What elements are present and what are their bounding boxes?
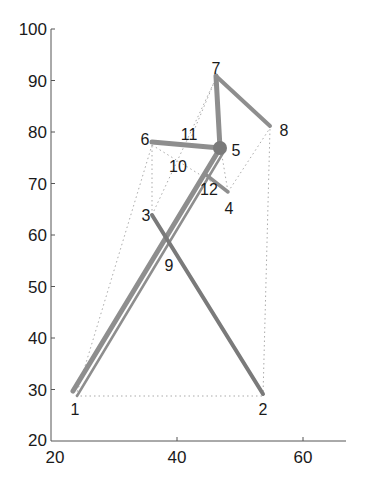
node-label-2: 2 xyxy=(259,401,268,418)
member-label-10: 10 xyxy=(169,158,187,175)
node-label-1: 1 xyxy=(71,401,80,418)
member-7-8 xyxy=(216,76,270,126)
y-tick-70: 70 xyxy=(28,175,47,194)
y-tick-80: 80 xyxy=(28,123,47,142)
x-tick-60: 60 xyxy=(294,448,313,467)
member-label-9: 9 xyxy=(165,257,174,274)
y-tick-90: 90 xyxy=(28,72,47,91)
node-label-6: 6 xyxy=(141,131,150,148)
y-tick-40: 40 xyxy=(28,329,47,348)
y-tick-20: 20 xyxy=(28,431,47,450)
member-5-7 xyxy=(216,76,220,148)
y-tick-30: 30 xyxy=(28,381,47,400)
node-label-8: 8 xyxy=(280,122,289,139)
member-1-5 xyxy=(73,150,219,391)
member-3-2 xyxy=(152,215,263,394)
joint-5 xyxy=(213,141,227,155)
y-tick-100: 100 xyxy=(19,20,47,39)
node-label-5: 5 xyxy=(232,142,241,159)
axes: 100 90 80 70 60 50 40 30 20 20 40 60 xyxy=(19,20,346,467)
x-tick-20: 20 xyxy=(46,448,65,467)
x-tick-40: 40 xyxy=(168,448,187,467)
node-label-3: 3 xyxy=(142,207,151,224)
member-label-12: 12 xyxy=(200,181,218,198)
y-tick-50: 50 xyxy=(28,278,47,297)
y-tick-60: 60 xyxy=(28,226,47,245)
member-label-11: 11 xyxy=(181,126,198,143)
node-label-7: 7 xyxy=(212,60,221,77)
node-label-4: 4 xyxy=(225,200,234,217)
members xyxy=(73,76,270,396)
truss-diagram: 100 90 80 70 60 50 40 30 20 20 40 60 xyxy=(0,0,367,486)
